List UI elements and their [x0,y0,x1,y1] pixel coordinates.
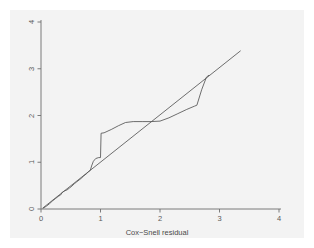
plot-area [0,0,314,248]
y-tick-label: 1 [28,160,36,164]
x-axis-ticks [41,209,279,213]
x-tick-label: 4 [277,215,281,223]
y-tick-label: 0 [28,207,36,211]
data-series-layer [43,51,241,208]
x-tick-label: 3 [217,215,221,223]
y-axis-ticks [38,22,42,209]
x-axis-label: Cox−Snell residual [126,228,189,237]
figure-canvas: 0123401234 Cox−Snell residual [0,0,314,248]
series-line-1 [43,51,241,208]
x-tick-label: 2 [158,215,162,223]
y-tick-label: 4 [28,20,36,24]
x-tick-label: 1 [98,215,102,223]
y-tick-label: 3 [28,67,36,71]
x-tick-label: 0 [39,215,43,223]
y-tick-label: 2 [28,113,36,117]
